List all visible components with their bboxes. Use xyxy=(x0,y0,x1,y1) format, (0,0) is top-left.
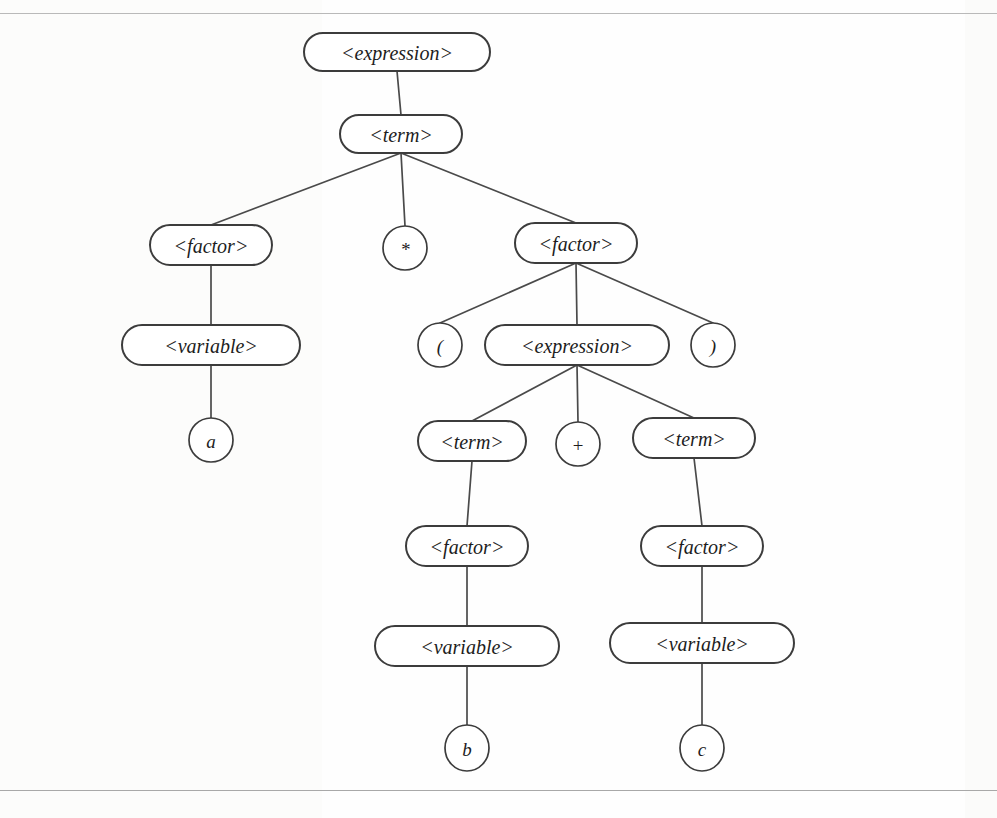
node-label: a xyxy=(206,431,216,452)
tree-node-expression: <expression> xyxy=(485,325,669,365)
node-label: <variable> xyxy=(164,335,258,357)
node-label: <factor> xyxy=(174,235,249,258)
tree-edge xyxy=(472,365,577,421)
tree-node-term: <term> xyxy=(340,115,462,153)
tree-edge xyxy=(694,458,702,526)
tree-edge xyxy=(577,365,578,422)
tree-edge xyxy=(401,153,576,223)
tree-edge xyxy=(467,461,472,526)
tree-edge xyxy=(401,153,405,226)
page-canvas: <expression><term><factor>*<factor><vari… xyxy=(0,0,997,818)
tree-node-variable: <variable> xyxy=(610,623,794,663)
node-label: b xyxy=(462,739,472,760)
node-label: <expression> xyxy=(521,335,633,358)
node-label: <factor> xyxy=(430,536,505,559)
tree-node-factor: <factor> xyxy=(150,225,272,265)
node-label: ) xyxy=(709,336,716,358)
tree-edge xyxy=(576,263,577,325)
tree-node-term: <term> xyxy=(633,418,755,458)
node-layer: <expression><term><factor>*<factor><vari… xyxy=(122,33,794,771)
tree-node-: ( xyxy=(418,323,462,367)
node-label: <term> xyxy=(440,431,504,453)
node-label: * xyxy=(400,239,410,260)
tree-node-factor: <factor> xyxy=(515,223,637,263)
tree-node-b: b xyxy=(445,725,489,771)
tree-node-: + xyxy=(556,422,600,466)
tree-node-a: a xyxy=(189,418,233,462)
node-label: <expression> xyxy=(341,42,453,65)
tree-edge xyxy=(397,71,401,115)
tree-edge xyxy=(576,263,713,323)
tree-node-: ) xyxy=(691,323,735,367)
tree-node-factor: <factor> xyxy=(641,526,763,566)
tree-node-variable: <variable> xyxy=(375,626,559,666)
tree-edge xyxy=(440,263,576,323)
node-label: + xyxy=(572,435,585,456)
node-label: <factor> xyxy=(539,233,614,256)
parse-tree-diagram: <expression><term><factor>*<factor><vari… xyxy=(0,0,997,818)
tree-node-term: <term> xyxy=(418,421,526,461)
tree-node-factor: <factor> xyxy=(406,526,528,566)
node-label: <variable> xyxy=(420,636,514,658)
tree-edge xyxy=(211,153,401,225)
tree-node-: * xyxy=(383,226,427,270)
tree-node-expression: <expression> xyxy=(304,33,490,71)
tree-node-c: c xyxy=(680,725,724,771)
tree-edge xyxy=(577,365,694,418)
node-label: c xyxy=(698,739,707,760)
node-label: <factor> xyxy=(665,536,740,559)
node-label: <variable> xyxy=(655,633,749,655)
node-label: <term> xyxy=(369,124,433,146)
tree-node-variable: <variable> xyxy=(122,325,300,365)
node-label: <term> xyxy=(662,428,726,450)
